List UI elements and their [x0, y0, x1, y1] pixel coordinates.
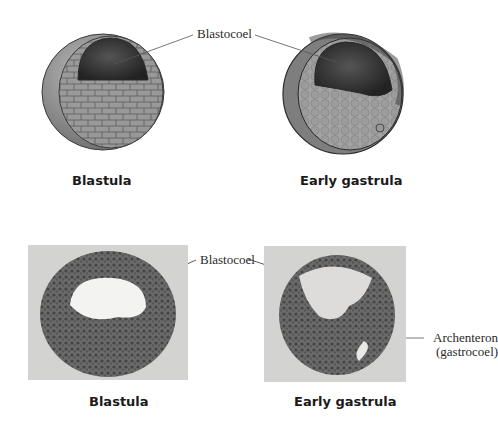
early-gastrula-micrograph — [264, 246, 406, 382]
label-blastocoel-top: Blastocoel — [197, 27, 252, 41]
caption-blastula-bottom: Blastula — [89, 394, 149, 409]
label-gastrocoel: (gastrocoel) — [436, 345, 498, 359]
early-gastrula-illustration — [283, 34, 403, 154]
label-blastocoel-bottom: Blastocoel — [200, 253, 255, 267]
blastula-micrograph — [28, 245, 188, 380]
label-archenteron: Archenteron — [433, 331, 498, 345]
caption-early-gastrula-bottom: Early gastrula — [294, 394, 396, 409]
blastula-illustration — [42, 34, 164, 150]
caption-early-gastrula-top: Early gastrula — [300, 173, 402, 188]
caption-blastula-top: Blastula — [72, 173, 132, 188]
